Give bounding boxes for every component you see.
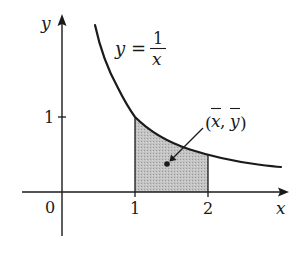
equation-numerator: 1	[153, 29, 163, 48]
y-axis-label: y	[40, 13, 51, 33]
centroid-label: ( x , y )	[205, 109, 247, 134]
equation-lhs: y =	[114, 38, 146, 59]
y-tick-label-1: 1	[44, 108, 54, 127]
diagram-canvas: y x 0 1 1 2 y = 1 x ( x , y )	[0, 0, 302, 253]
centroid-paren-close: )	[240, 113, 247, 133]
x-axis-label: x	[276, 198, 286, 218]
centroid-separator: ,	[220, 111, 225, 131]
centroid-point	[164, 161, 170, 167]
centroid-y-bar: y	[229, 111, 240, 131]
x-tick-label-1: 1	[130, 199, 140, 218]
shaded-region	[135, 117, 208, 192]
equation-label: y = 1 x	[114, 29, 166, 69]
x-tick-label-2: 2	[203, 199, 213, 218]
equation-denominator: x	[152, 49, 162, 69]
origin-label: 0	[45, 198, 55, 217]
